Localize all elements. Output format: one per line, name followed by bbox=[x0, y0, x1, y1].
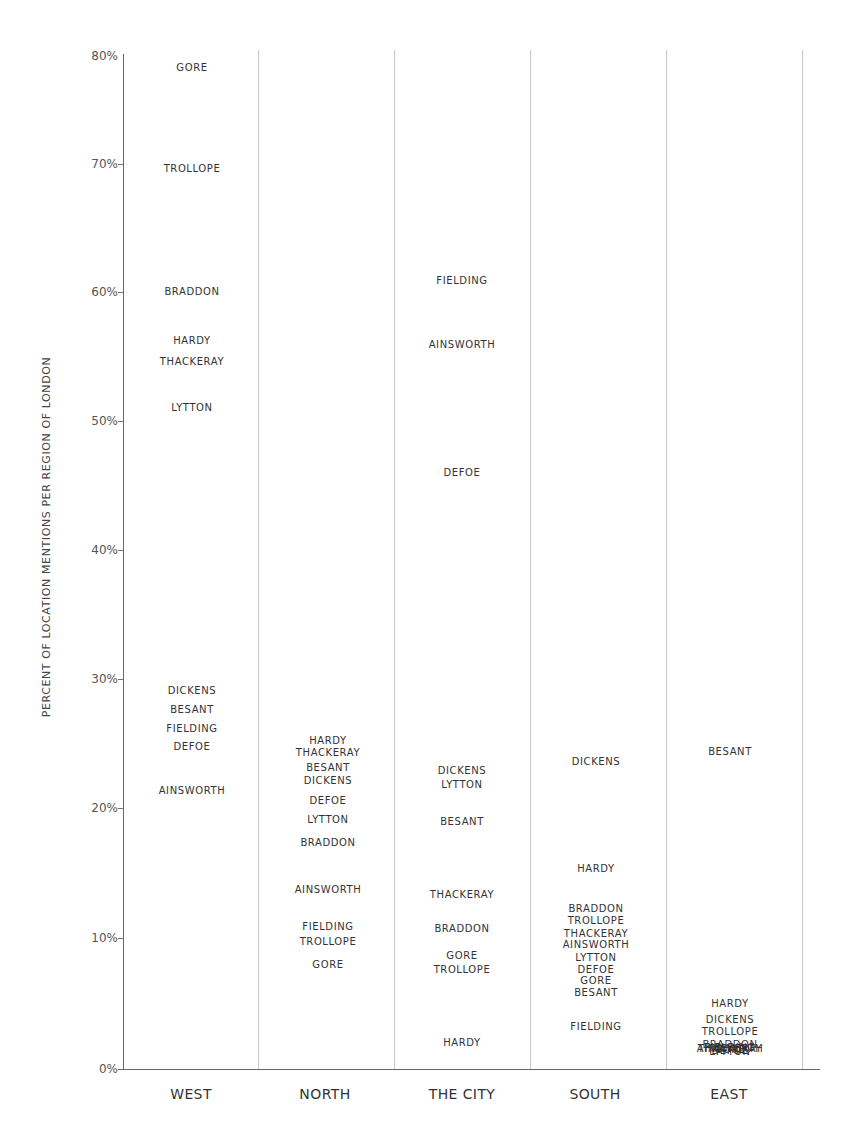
y-tick-label-30: 30% bbox=[91, 672, 118, 686]
x-category-south: SOUTH bbox=[569, 1086, 620, 1102]
point-label-west-braddon: BRADDON bbox=[164, 287, 219, 297]
point-label-city-hardy: HARDY bbox=[443, 1038, 481, 1048]
point-label-north-lytton: LYTTON bbox=[307, 815, 348, 825]
point-label-west-fielding: FIELDING bbox=[166, 724, 217, 734]
point-label-south-thackeray: THACKERAY bbox=[564, 929, 628, 939]
x-category-west: WEST bbox=[170, 1086, 212, 1102]
point-label-north-trollope: TROLLOPE bbox=[300, 937, 357, 947]
column-separator bbox=[530, 50, 531, 1069]
point-label-city-ainsworth: AINSWORTH bbox=[429, 340, 496, 350]
y-tick-label-10: 10% bbox=[91, 931, 118, 945]
point-label-north-fielding: FIELDING bbox=[302, 922, 353, 932]
y-tick-label-70: 70% bbox=[91, 157, 118, 171]
point-label-east-trollope: TROLLOPE bbox=[702, 1027, 759, 1037]
point-label-east-hardy: HARDY bbox=[711, 999, 749, 1009]
y-tick-label-40: 40% bbox=[91, 543, 118, 557]
y-axis-line bbox=[123, 54, 124, 1070]
point-label-city-defoe: DEFOE bbox=[444, 468, 481, 478]
point-label-north-defoe: DEFOE bbox=[310, 796, 347, 806]
point-label-city-braddon: BRADDON bbox=[434, 924, 489, 934]
point-label-city-besant: BESANT bbox=[440, 817, 484, 827]
point-label-west-besant: BESANT bbox=[170, 705, 214, 715]
point-label-city-fielding: FIELDING bbox=[436, 276, 487, 286]
point-label-north-besant: BESANT bbox=[306, 763, 350, 773]
point-label-city-gore: GORE bbox=[446, 951, 477, 961]
y-tick-label-80: 80% bbox=[91, 49, 118, 63]
y-tick-label-0: 0% bbox=[99, 1062, 118, 1076]
y-tick-label-20: 20% bbox=[91, 801, 118, 815]
point-label-west-gore: GORE bbox=[176, 63, 207, 73]
point-label-south-trollope: TROLLOPE bbox=[568, 916, 625, 926]
point-label-east-lytton: LYTTON bbox=[709, 1047, 750, 1057]
y-tick-label-60: 60% bbox=[91, 285, 118, 299]
point-label-city-lytton: LYTTON bbox=[441, 780, 482, 790]
point-label-north-braddon: BRADDON bbox=[300, 838, 355, 848]
column-separator bbox=[802, 50, 803, 1069]
point-label-west-thackeray: THACKERAY bbox=[160, 357, 224, 367]
point-label-west-ainsworth: AINSWORTH bbox=[159, 786, 226, 796]
point-label-north-dickens: DICKENS bbox=[304, 776, 353, 786]
point-label-south-dickens: DICKENS bbox=[572, 757, 621, 767]
point-label-city-thackeray: THACKERAY bbox=[430, 890, 494, 900]
point-label-west-hardy: HARDY bbox=[173, 336, 211, 346]
point-label-south-braddon: BRADDON bbox=[568, 904, 623, 914]
point-label-south-hardy: HARDY bbox=[577, 864, 615, 874]
point-label-city-dickens: DICKENS bbox=[438, 766, 487, 776]
x-category-north: NORTH bbox=[299, 1086, 350, 1102]
point-label-north-gore: GORE bbox=[312, 960, 343, 970]
point-label-north-thackeray: THACKERAY bbox=[296, 748, 360, 758]
x-axis-line bbox=[118, 1069, 820, 1070]
y-axis-title: PERCENT OF LOCATION MENTIONS PER REGION … bbox=[40, 357, 53, 718]
column-separator bbox=[666, 50, 667, 1069]
point-label-south-besant: BESANT bbox=[574, 988, 618, 998]
point-label-south-fielding: FIELDING bbox=[570, 1022, 621, 1032]
point-label-west-dickens: DICKENS bbox=[168, 686, 217, 696]
point-label-south-lytton: LYTTON bbox=[575, 953, 616, 963]
point-label-south-gore: GORE bbox=[580, 976, 611, 986]
point-label-south-defoe: DEFOE bbox=[578, 965, 615, 975]
column-separator bbox=[394, 50, 395, 1069]
point-label-west-lytton: LYTTON bbox=[171, 403, 212, 413]
x-category-the-city: THE CITY bbox=[429, 1086, 496, 1102]
chart-area: PERCENT OF LOCATION MENTIONS PER REGION … bbox=[0, 0, 850, 1139]
point-label-city-trollope: TROLLOPE bbox=[434, 965, 491, 975]
point-label-north-hardy: HARDY bbox=[309, 736, 347, 746]
point-label-west-defoe: DEFOE bbox=[174, 742, 211, 752]
point-label-east-besant: BESANT bbox=[708, 747, 752, 757]
column-separator bbox=[258, 50, 259, 1069]
y-tick-label-50: 50% bbox=[91, 414, 118, 428]
point-label-west-trollope: TROLLOPE bbox=[164, 164, 221, 174]
point-label-east-dickens: DICKENS bbox=[706, 1015, 755, 1025]
x-category-east: EAST bbox=[710, 1086, 747, 1102]
point-label-north-ainsworth: AINSWORTH bbox=[295, 885, 362, 895]
point-label-south-ainsworth: AINSWORTH bbox=[563, 940, 630, 950]
